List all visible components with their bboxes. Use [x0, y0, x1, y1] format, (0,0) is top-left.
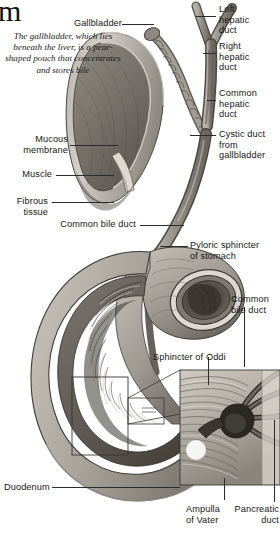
- anatomy-illustration: [0, 0, 280, 533]
- leader-fibrous-tissue: [52, 202, 114, 203]
- label-common-hepatic-duct: Common hepatic duct: [219, 88, 280, 120]
- label-fibrous-tissue: Fibrous tissue: [2, 196, 48, 217]
- label-mucous-membrane: Mucous membrane: [2, 134, 68, 155]
- page-highlight-spot: [186, 440, 206, 460]
- leader-pancreatic-duct: [274, 420, 275, 502]
- leader-muscle: [56, 175, 114, 176]
- label-pancreatic-duct: Pancreatic duct: [231, 504, 279, 525]
- figure-canvas: m Gallbladder The gallbladder, which lie…: [0, 0, 280, 533]
- label-duodenum: Duodenum: [4, 482, 64, 493]
- detail-inset-right: [180, 370, 280, 485]
- leader-common-hepatic-duct: [207, 100, 216, 101]
- caption-gallbladder: The gallbladder, which lies beneath the …: [4, 31, 122, 76]
- leader-pyloric-sphincter: [160, 246, 188, 247]
- label-common-bile-duct-right: Common bile duct: [231, 294, 280, 315]
- label-sphincter-of-oddi: Sphincter of Oddi: [153, 352, 245, 363]
- corner-text-fragment: m: [0, 0, 21, 26]
- label-muscle: Muscle: [2, 169, 52, 180]
- leader-left-hepatic-duct: [196, 16, 216, 17]
- label-common-bile-duct-left: Common bile duct: [36, 219, 136, 230]
- label-cystic-duct: Cystic duct from gallbladder: [219, 129, 280, 161]
- leader-cystic-duct: [190, 135, 216, 136]
- leader-duodenum: [52, 487, 180, 488]
- leader-common-bile-duct-left: [140, 225, 184, 226]
- leader-right-hepatic-duct: [203, 53, 216, 54]
- leader-ampulla-of-vater: [224, 478, 225, 500]
- label-ampulla-of-vater: Ampulla of Vater: [186, 504, 228, 525]
- label-left-hepatic-duct: Left hepatic duct: [219, 4, 279, 36]
- leader-gallbladder: [122, 24, 154, 25]
- label-right-hepatic-duct: Right hepatic duct: [219, 41, 279, 73]
- label-pyloric-sphincter: Pyloric sphincter of stomach: [190, 240, 280, 261]
- leader-mucous-membrane: [70, 145, 118, 146]
- label-gallbladder: Gallbladder: [36, 18, 122, 29]
